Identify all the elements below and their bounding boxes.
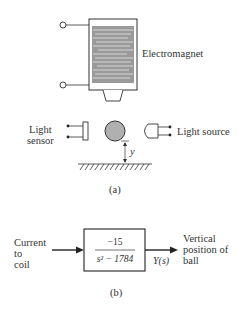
input-label-3: coil (14, 259, 30, 270)
output-label-3: ball (183, 255, 199, 266)
output-label-1: Vertical (183, 233, 216, 244)
distance-marker (121, 141, 129, 163)
distance-y-label: y (130, 146, 135, 157)
light-sensor-label-1: Light (29, 124, 52, 135)
light-source-label: Light source (177, 126, 230, 137)
electromagnet (89, 19, 137, 101)
caption-a: (a) (109, 184, 121, 195)
input-arrow (52, 247, 84, 254)
input-label-2: to (14, 248, 22, 259)
input-label-1: Current (14, 237, 46, 248)
light-sensor (67, 122, 88, 140)
output-signal-label: Y(s) (153, 255, 169, 266)
tf-numerator: −15 (95, 237, 135, 247)
tf-denominator: s² − 1784 (90, 254, 140, 264)
light-source (145, 124, 172, 138)
light-sensor-label-2: sensor (27, 135, 54, 146)
electromagnet-label: Electromagnet (142, 48, 203, 59)
output-label-2: position of (183, 244, 228, 255)
caption-b: (b) (110, 287, 122, 298)
magnetic-levitation-diagram (0, 0, 240, 313)
ground (78, 164, 152, 170)
output-arrow (145, 247, 178, 254)
steel-ball (105, 121, 125, 141)
